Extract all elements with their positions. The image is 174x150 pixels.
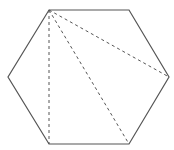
hexagon-outline <box>8 10 169 144</box>
diagonal-to-bottom-right <box>49 10 129 144</box>
hexagon-diagram <box>0 0 174 150</box>
diagonal-to-right <box>49 10 169 77</box>
